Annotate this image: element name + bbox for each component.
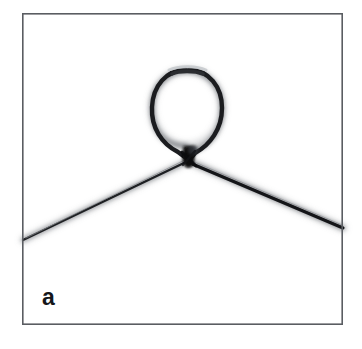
panel-background <box>22 13 343 325</box>
figure-panel: a <box>0 0 362 349</box>
panel-label: a <box>42 286 55 309</box>
